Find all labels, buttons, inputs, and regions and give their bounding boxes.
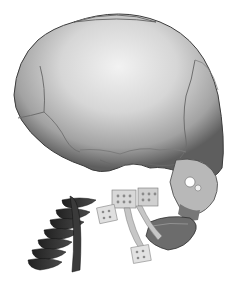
facial-bones bbox=[170, 159, 218, 220]
ct-render-image bbox=[0, 0, 244, 282]
skull-render bbox=[0, 0, 244, 282]
distraction-devices bbox=[97, 188, 162, 263]
cervical-spine bbox=[28, 196, 96, 272]
cranium bbox=[14, 14, 223, 178]
